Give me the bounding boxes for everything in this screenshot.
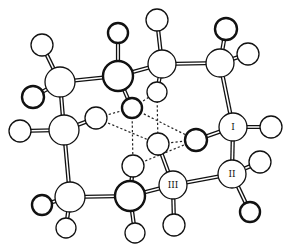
atom-c3 — [148, 50, 176, 78]
atom-c4 — [206, 49, 234, 77]
atom-h19 — [249, 151, 271, 173]
atom-h14 — [122, 155, 144, 177]
atom-c6 — [55, 182, 85, 212]
atom-h18 — [163, 214, 185, 236]
atom-h1 — [31, 34, 53, 56]
hydrogen-bond-lines — [96, 92, 196, 166]
atom-h3 — [108, 23, 128, 43]
atom-c5 — [49, 115, 79, 145]
atom-h13 — [185, 129, 207, 151]
atom-h2 — [22, 86, 44, 108]
atom-c7 — [115, 181, 145, 211]
label-I: I — [231, 122, 235, 132]
atom-h5 — [215, 18, 237, 40]
atom-h15 — [32, 195, 52, 215]
atom-h12 — [260, 116, 282, 138]
atom-h10 — [122, 98, 142, 118]
atom-h8 — [85, 107, 107, 129]
label-II: II — [228, 169, 236, 179]
atom-h16 — [56, 218, 76, 238]
atom-c2 — [103, 61, 133, 91]
atom-h9 — [9, 120, 31, 142]
atoms — [9, 9, 282, 243]
atom-h11 — [147, 133, 169, 155]
label-III: III — [168, 180, 179, 190]
atom-h17 — [125, 223, 145, 243]
atom-h20 — [240, 202, 260, 222]
atom-h4 — [146, 9, 168, 31]
atom-h6 — [237, 43, 259, 65]
atom-c1 — [45, 67, 75, 97]
atom-h7 — [147, 82, 167, 102]
molecular-structure-diagram: I II III — [0, 0, 293, 252]
